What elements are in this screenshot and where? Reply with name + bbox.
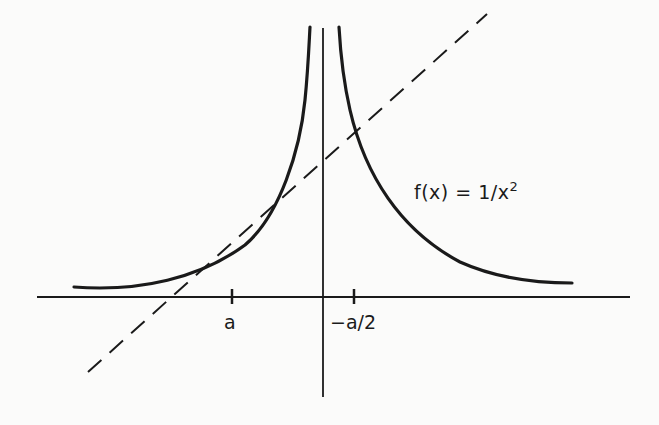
function-label-text: f(x) = 1/x [414,181,510,203]
function-label: f(x) = 1/x2 [414,183,518,202]
tick-label-a: a [224,313,236,332]
tick-label-minus-a-half: −a/2 [330,313,376,332]
diagram-canvas [0,0,659,425]
curve-left-branch [74,27,310,288]
curve-right-branch [339,27,572,283]
function-label-exponent: 2 [510,179,519,194]
function-diagram: f(x) = 1/x2 a −a/2 [0,0,659,425]
